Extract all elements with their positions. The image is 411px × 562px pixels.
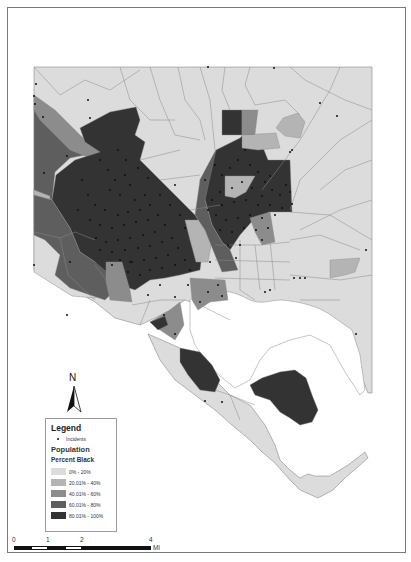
- legend-class-4: 60.01% - 80%: [51, 499, 111, 510]
- scale-tick-4: 4: [149, 536, 153, 543]
- tract-north-class5: [222, 110, 242, 135]
- swatch-class-2: [51, 479, 66, 486]
- scale-segment: [14, 546, 31, 550]
- legend-class-label: 0% - 20%: [69, 469, 91, 475]
- tract-north-class2a: [242, 133, 280, 150]
- legend-title: Legend: [51, 423, 111, 433]
- tract-southeast-class5: [250, 370, 318, 425]
- scale-segment: [31, 546, 48, 550]
- swatch-class-5: [51, 512, 66, 519]
- legend-class-label: 20.01% - 40%: [69, 480, 100, 486]
- legend-class-2: 20.01% - 40%: [51, 477, 111, 488]
- incidents-label: Incidents: [66, 436, 86, 442]
- scale-tick-1: 1: [46, 536, 50, 543]
- scale-segment: [82, 546, 151, 550]
- incident-dot-icon: [57, 438, 59, 440]
- north-arrow-icon: [62, 384, 86, 418]
- legend-class-label: 40.01% - 60%: [69, 491, 100, 497]
- legend-class-label: 60.01% - 80%: [69, 502, 100, 508]
- legend-layer-title: Population: [51, 445, 111, 454]
- swatch-class-1: [51, 468, 66, 475]
- legend-class-1: 0% - 20%: [51, 466, 111, 477]
- north-label: N: [69, 372, 76, 383]
- legend-class-5: 80.01% - 100%: [51, 510, 111, 521]
- legend-class-label: 80.01% - 100%: [69, 513, 103, 519]
- swatch-class-4: [51, 501, 66, 508]
- scale-tick-0: 0: [12, 536, 16, 543]
- scale-tick-2: 2: [80, 536, 84, 543]
- legend: Legend Incidents Population Percent Blac…: [45, 418, 117, 532]
- scale-segment: [48, 546, 65, 550]
- swatch-class-3: [51, 490, 66, 497]
- legend-incidents: Incidents: [57, 436, 111, 442]
- scale-segment: [65, 546, 82, 550]
- legend-field-title: Percent Black: [51, 456, 111, 463]
- north-arrow: N: [62, 372, 86, 416]
- scale-unit: Mi: [153, 544, 160, 551]
- legend-class-3: 40.01% - 60%: [51, 488, 111, 499]
